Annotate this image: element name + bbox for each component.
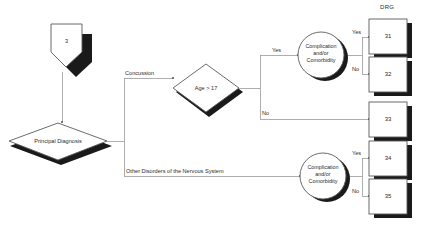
edge-label-concussion: Concussion	[125, 70, 154, 76]
cc-bottom-line3: Comorbidity	[300, 178, 346, 185]
cc-top-line3: Comorbidity	[298, 57, 344, 64]
drg-column-header: DRG	[380, 4, 394, 10]
drg-box-32-label: 32	[369, 71, 407, 77]
edge-label-cc-top-no: No	[352, 66, 359, 72]
start-node-label: 3	[51, 38, 82, 44]
age-decision-label: Age > 17	[176, 85, 236, 91]
cc-bottom-line2: and/or	[300, 171, 346, 178]
drg-box-33-label: 33	[369, 116, 407, 122]
edge-label-cc-bottom-yes: Yes	[352, 150, 361, 156]
endpoint-principal	[61, 121, 63, 123]
flowchart-graphics	[0, 0, 432, 232]
cc-top-label: Complication and/or Comorbidity	[298, 43, 344, 63]
cc-top-line2: and/or	[298, 50, 344, 57]
principal-diagnosis-label: Principal Diagnosis	[13, 138, 103, 144]
drg-box-34-label: 34	[369, 155, 407, 161]
drg-box-31-label: 31	[369, 33, 407, 39]
drg-box-35-label: 35	[369, 193, 407, 199]
endpoint-age	[172, 77, 174, 79]
edge-label-cc-bottom-no: No	[352, 188, 359, 194]
cc-top-line1: Complication	[298, 43, 344, 50]
edge-label-age-no: No	[262, 110, 269, 116]
cc-bottom-label: Complication and/or Comorbidity	[300, 164, 346, 184]
flowchart-canvas: DRG 3 Principal Diagnosis Age > 17 Compl…	[0, 0, 432, 232]
start-node-pentagon	[51, 24, 92, 77]
edge-label-age-yes: Yes	[272, 47, 281, 53]
edge-label-other-disorders: Other Disorders of the Nervous System	[126, 168, 224, 174]
edge-label-cc-top-yes: Yes	[352, 29, 361, 35]
cc-bottom-line1: Complication	[300, 164, 346, 171]
